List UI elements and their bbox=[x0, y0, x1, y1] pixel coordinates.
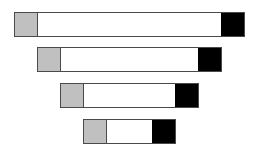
bar-1-gray-segment bbox=[15, 13, 38, 36]
bar-2-gray-segment bbox=[38, 48, 61, 71]
bar-1-black-segment bbox=[221, 13, 244, 36]
bar-2-black-segment bbox=[198, 48, 221, 71]
bar-2-white-segment bbox=[61, 48, 198, 71]
bar-4-white-segment bbox=[107, 120, 152, 143]
bar-4-gray-segment bbox=[84, 120, 107, 143]
bar-1 bbox=[14, 12, 245, 37]
bar-4-black-segment bbox=[152, 120, 175, 143]
bar-3-gray-segment bbox=[61, 84, 84, 107]
diagram-canvas bbox=[0, 0, 257, 155]
bar-3 bbox=[60, 83, 199, 108]
bar-4 bbox=[83, 119, 176, 144]
bar-3-black-segment bbox=[175, 84, 198, 107]
bar-2 bbox=[37, 47, 222, 72]
bar-1-white-segment bbox=[38, 13, 221, 36]
bar-3-white-segment bbox=[84, 84, 175, 107]
